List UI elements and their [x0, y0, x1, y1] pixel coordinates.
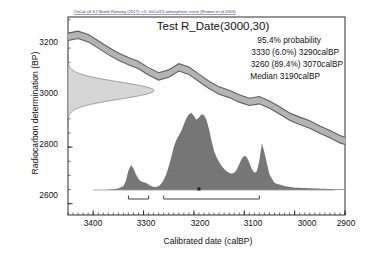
plot-canvas: [0, 0, 367, 258]
hpd-range-bracket: [128, 196, 148, 200]
median-marker: [197, 187, 200, 190]
hpd-range-brackets: [128, 196, 259, 200]
hpd-range-bracket: [164, 196, 260, 200]
oxcal-calibration-figure: OxCal v4.3.2 Bronk Ramsey (2017); r:5; I…: [0, 0, 367, 258]
